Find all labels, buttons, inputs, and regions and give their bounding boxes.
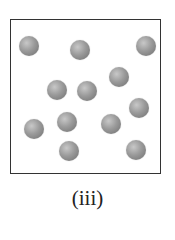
particle-sphere-icon [59, 141, 79, 161]
particle-sphere-icon [136, 36, 156, 56]
particle-sphere-icon [47, 80, 67, 100]
particle-sphere-icon [101, 114, 121, 134]
particle-sphere-icon [126, 140, 146, 160]
particle-sphere-icon [19, 36, 39, 56]
particle-sphere-icon [57, 112, 77, 132]
particle-sphere-icon [70, 40, 90, 60]
particle-sphere-icon [129, 98, 149, 118]
particle-sphere-icon [24, 119, 44, 139]
particle-sphere-icon [77, 81, 97, 101]
figure-label: (iii) [0, 186, 175, 211]
particle-sphere-icon [109, 67, 129, 87]
